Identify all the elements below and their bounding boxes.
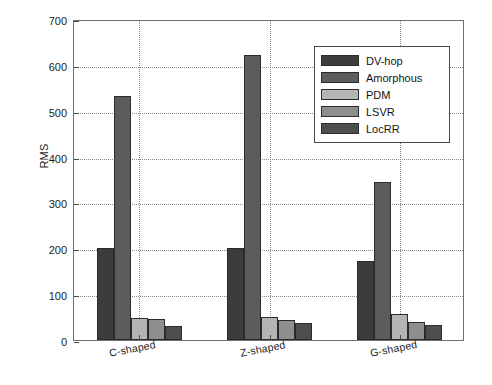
y-tick-mark <box>74 204 79 205</box>
legend-swatch <box>321 123 359 134</box>
legend-label: LSVR <box>366 106 395 118</box>
legend-rows: DV-hopAmorphousPDMLSVRLocRR <box>321 52 443 137</box>
bar <box>278 320 295 340</box>
legend-swatch <box>321 72 359 83</box>
y-tick-label: 200 <box>28 244 74 256</box>
x-tick-label: Z-shaped <box>239 338 286 359</box>
y-tick-label: 0 <box>28 336 74 348</box>
y-tick-label: 100 <box>28 290 74 302</box>
gridline-vertical <box>139 21 140 340</box>
y-tick-label: 400 <box>28 153 74 165</box>
bar <box>425 325 442 340</box>
y-tick-mark <box>74 113 79 114</box>
gridline-horizontal <box>74 296 463 297</box>
legend-label: Amorphous <box>366 72 422 84</box>
bar <box>374 182 391 340</box>
y-tick-mark <box>74 296 79 297</box>
bar <box>244 55 261 340</box>
gridline-horizontal <box>74 159 463 160</box>
y-tick-mark <box>74 21 79 22</box>
bar <box>357 261 374 340</box>
legend-label: LocRR <box>366 123 400 135</box>
y-tick-mark <box>74 159 79 160</box>
y-tick-label: 600 <box>28 61 74 73</box>
legend-item: Amorphous <box>321 69 443 86</box>
legend-label: PDM <box>366 89 390 101</box>
legend-swatch <box>321 55 359 66</box>
y-tick-label: 500 <box>28 107 74 119</box>
gridline-vertical <box>270 21 271 340</box>
bar-chart: RMS 0100200300400500600700 C-shapedZ-sha… <box>0 0 492 385</box>
legend-item: DV-hop <box>321 52 443 69</box>
bar <box>227 248 244 340</box>
legend-swatch <box>321 89 359 100</box>
x-tick-label: C-shaped <box>108 338 157 359</box>
legend-item: PDM <box>321 86 443 103</box>
bar <box>148 319 165 340</box>
x-tick-mark <box>270 335 271 340</box>
y-tick-mark <box>74 250 79 251</box>
legend-item: LocRR <box>321 120 443 137</box>
y-tick-mark <box>74 342 79 343</box>
gridline-horizontal <box>74 204 463 205</box>
y-tick-label: 300 <box>28 198 74 210</box>
bar <box>295 323 312 340</box>
bar <box>165 326 182 340</box>
bar <box>114 96 131 340</box>
x-tick-label: G-shaped <box>369 338 418 359</box>
x-tick-mark <box>139 335 140 340</box>
bar <box>408 322 425 340</box>
gridline-horizontal <box>74 250 463 251</box>
x-tick-mark <box>400 335 401 340</box>
bar <box>97 248 114 340</box>
legend-item: LSVR <box>321 103 443 120</box>
legend-label: DV-hop <box>366 55 403 67</box>
y-tick-label: 700 <box>28 15 74 27</box>
y-tick-mark <box>74 67 79 68</box>
legend: DV-hopAmorphousPDMLSVRLocRR <box>314 46 450 143</box>
legend-swatch <box>321 106 359 117</box>
